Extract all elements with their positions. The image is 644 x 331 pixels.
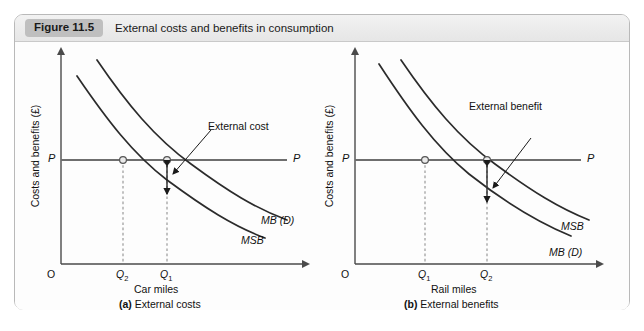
- panel-caption-b: (b) External benefits: [404, 298, 499, 310]
- curve-label-mb-d-a: MB (D): [261, 214, 294, 226]
- curve-msb: [401, 60, 589, 220]
- origin-label-b: O: [341, 268, 349, 280]
- curve-label-msb-a: MSB: [241, 234, 264, 246]
- panel-b-plot: [309, 42, 617, 310]
- y-axis-label-b: Costs and benefits (£): [323, 81, 335, 231]
- external-cost-annotation: External cost: [208, 120, 269, 132]
- panel-caption-text-a: External costs: [135, 298, 201, 310]
- panel-caption-a: (a) External costs: [119, 298, 201, 310]
- marker-q2-msb: [484, 157, 491, 164]
- q1-label-b: Q1: [418, 268, 430, 283]
- q2-label-a: Q2: [116, 268, 128, 283]
- curve-mb-d: [379, 64, 571, 236]
- marker-q2-msb: [120, 157, 127, 164]
- price-label-right-a: P: [293, 152, 300, 164]
- panel-external-benefits: Costs and benefits (£) O P P Q1 Q2 MSB M…: [309, 42, 617, 310]
- q2-label-b: Q2: [480, 268, 492, 283]
- figure-screenshot: Figure 11.5 External costs and benefits …: [0, 0, 644, 331]
- figure-title: External costs and benefits in consumpti…: [115, 22, 334, 34]
- price-label-right-b: P: [587, 152, 594, 164]
- origin-label-a: O: [47, 268, 55, 280]
- curve-msb: [77, 76, 265, 238]
- panel-caption-letter-a: (a): [119, 298, 132, 310]
- panel-caption-text-b: External benefits: [420, 298, 498, 310]
- q1-label-a: Q1: [160, 268, 172, 283]
- panel-caption-letter-b: (b): [404, 298, 417, 310]
- figure-body: Costs and benefits (£) O P P Q2 Q1 MB (D…: [15, 42, 629, 310]
- price-label-left-b: P: [342, 152, 349, 164]
- curve-label-msb-b: MSB: [561, 220, 584, 232]
- x-axis-label-a: Car miles: [134, 283, 178, 295]
- panel-external-costs: Costs and benefits (£) O P P Q2 Q1 MB (D…: [15, 42, 323, 310]
- y-axis-label-a: Costs and benefits (£): [29, 81, 41, 231]
- marker-q1-mb: [164, 157, 171, 164]
- curve-label-mb-d-b: MB (D): [549, 246, 582, 258]
- figure-header: Figure 11.5 External costs and benefits …: [15, 15, 629, 42]
- price-label-left-a: P: [48, 152, 55, 164]
- x-axis-label-b: Rail miles: [431, 283, 477, 295]
- external-benefit-leader-line: [493, 138, 531, 188]
- figure-number-badge: Figure 11.5: [25, 19, 103, 37]
- external-cost-leader-line: [173, 130, 211, 174]
- external-benefit-annotation: External benefit: [469, 100, 542, 112]
- figure-card: Figure 11.5 External costs and benefits …: [14, 14, 630, 310]
- marker-q1-mb: [422, 157, 429, 164]
